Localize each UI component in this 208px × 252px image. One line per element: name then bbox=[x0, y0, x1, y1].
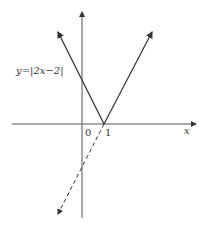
graph-right-branch bbox=[104, 32, 152, 124]
function-graph: y=|2x−2| 0 1 x bbox=[0, 0, 208, 252]
origin-label: 0 bbox=[85, 127, 91, 138]
dashed-extension bbox=[58, 124, 104, 214]
graph-left-branch bbox=[58, 32, 104, 124]
equation-label: y=|2x−2| bbox=[15, 65, 64, 77]
tick-label-1: 1 bbox=[105, 127, 111, 138]
x-axis-label: x bbox=[184, 125, 190, 136]
